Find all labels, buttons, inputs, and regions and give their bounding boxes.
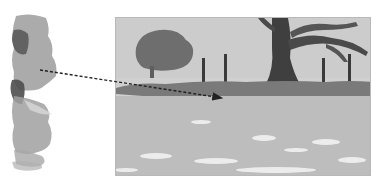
landscape-illustration bbox=[116, 18, 371, 176]
landscape-painting bbox=[115, 17, 371, 176]
grass-field bbox=[116, 96, 371, 176]
color-swatch-strip bbox=[0, 0, 120, 192]
swatch-brush-strokes bbox=[11, 14, 57, 170]
hedge-line bbox=[116, 81, 371, 98]
